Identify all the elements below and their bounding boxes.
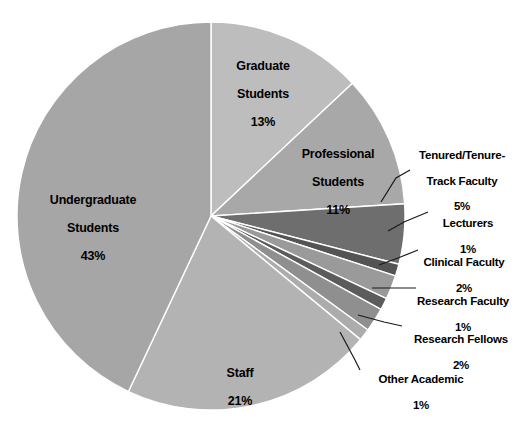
slice-label-line1: Other Academic [355,373,487,386]
slice-label-value: 21% [195,394,285,408]
slice-label-value: 13% [203,115,323,129]
slice-label-line1: Research Faculty [400,295,526,308]
slice-label-value: 1% [355,399,487,412]
slice-label-line2: Students [18,221,168,235]
slice-label-line2: Students [203,87,323,101]
slice-label-staff: Staff 21% [195,352,285,422]
slice-label-line1: Tenured/Tenure- [398,149,526,162]
slice-label-graduate-students: Graduate Students 13% [203,45,323,143]
slice-label-line2: Track Faculty [398,175,526,188]
slice-label-line1: Graduate [203,59,323,73]
slice-label-line2: Students [282,175,394,189]
slice-label-line1: Undergraduate [18,193,168,207]
slice-label-other-academic: Other Academic 1% [355,360,487,424]
slice-label-line1: Professional [282,147,394,161]
slice-label-line1: Lecturers [412,217,524,230]
pie-chart-figure: Undergraduate Students 43% Graduate Stud… [0,0,528,429]
slice-label-undergraduate-students: Undergraduate Students 43% [18,179,168,277]
slice-label-professional-students: Professional Students 11% [282,133,394,231]
slice-label-line1: Research Fellows [396,333,526,346]
slice-label-line1: Clinical Faculty [404,256,524,269]
slice-label-line1: Staff [195,366,285,380]
slice-label-value: 11% [282,203,394,217]
slice-label-value: 43% [18,249,168,263]
